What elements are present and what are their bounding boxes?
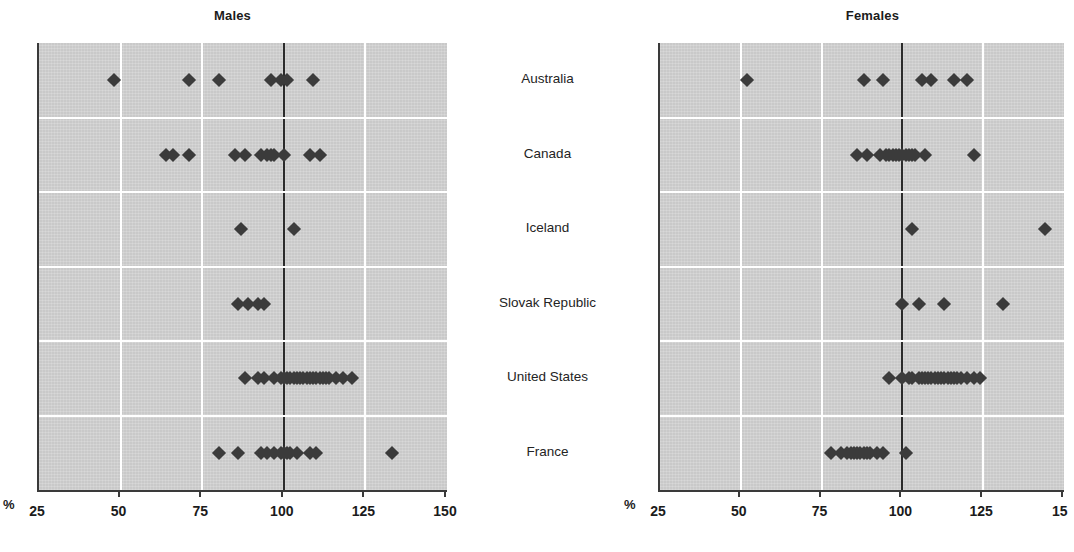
x-axis-tick-label: 100 [256, 503, 308, 519]
x-axis-tick [980, 490, 982, 497]
x-axis-tick-label: 25 [632, 503, 684, 519]
x-axis-tick-label: 15 [1052, 503, 1074, 519]
x-axis-tick [199, 490, 201, 497]
x-axis-tick [899, 490, 901, 497]
x-axis-tick-label: 100 [874, 503, 926, 519]
x-axis-tick-label: 150 [419, 503, 471, 519]
data-point-marker [740, 73, 754, 87]
data-point-marker [924, 73, 938, 87]
data-point-marker [182, 73, 196, 87]
data-point-marker [313, 148, 327, 162]
country-label-slovak-republic: Slovak Republic [455, 295, 640, 310]
x-axis-tick [738, 490, 740, 497]
data-point-marker [905, 222, 919, 236]
data-point-marker [918, 148, 932, 162]
country-label-column: AustraliaCanadaIcelandSlovak RepublicUni… [455, 43, 640, 490]
x-axis-tick-label: 50 [93, 503, 145, 519]
axis-unit-females: % [624, 497, 636, 512]
data-point-marker [287, 222, 301, 236]
data-point-marker [911, 297, 925, 311]
x-axis-tick-label: 75 [794, 503, 846, 519]
country-label-france: France [455, 444, 640, 459]
band-separator [660, 340, 1064, 342]
x-axis-tick-label: 125 [955, 503, 1007, 519]
panel-males: Males 255075100125150 % [0, 0, 470, 552]
dot-plot-figure: Males 255075100125150 % AustraliaCanadaI… [0, 0, 1074, 552]
band-separator [39, 340, 447, 342]
x-axis-tick [118, 490, 120, 497]
band-separator [660, 191, 1064, 193]
country-label-iceland: Iceland [455, 220, 640, 235]
country-label-united-states: United States [455, 369, 640, 384]
data-point-marker [306, 73, 320, 87]
data-point-marker [234, 222, 248, 236]
band-separator [660, 415, 1064, 417]
data-point-marker [996, 297, 1010, 311]
data-point-marker [960, 73, 974, 87]
data-point-marker [238, 148, 252, 162]
axis-unit-males: % [3, 497, 15, 512]
data-point-marker [947, 73, 961, 87]
x-axis-tick [1061, 490, 1063, 497]
data-point-marker [277, 148, 291, 162]
band-separator [660, 266, 1064, 268]
data-point-marker [345, 371, 359, 385]
panel-title-females: Females [640, 8, 1074, 23]
band-separator [39, 266, 447, 268]
x-axis-tick [819, 490, 821, 497]
plot-area-females [658, 43, 1064, 492]
data-point-marker [182, 148, 196, 162]
data-point-marker [211, 446, 225, 460]
panel-title-males: Males [0, 8, 465, 23]
x-axis-tick [444, 490, 446, 497]
data-point-marker [895, 297, 909, 311]
x-axis-tick-label: 25 [11, 503, 63, 519]
x-axis-tick [281, 490, 283, 497]
plot-area-males [37, 43, 447, 492]
data-point-marker [238, 371, 252, 385]
x-axis-tick-label: 50 [713, 503, 765, 519]
country-label-australia: Australia [455, 71, 640, 86]
data-point-marker [966, 148, 980, 162]
data-point-marker [211, 73, 225, 87]
x-axis-tick-label: 75 [174, 503, 226, 519]
band-separator [39, 117, 447, 119]
data-point-marker [231, 446, 245, 460]
data-point-marker [937, 297, 951, 311]
band-separator [39, 415, 447, 417]
country-label-canada: Canada [455, 146, 640, 161]
data-point-marker [857, 73, 871, 87]
data-point-marker [384, 446, 398, 460]
band-separator [39, 191, 447, 193]
band-separator [660, 117, 1064, 119]
x-axis-tick-label: 125 [337, 503, 389, 519]
x-axis-tick [362, 490, 364, 497]
panel-females: Females 25507510012515 % [640, 0, 1074, 552]
data-point-marker [1038, 222, 1052, 236]
data-point-marker [876, 73, 890, 87]
